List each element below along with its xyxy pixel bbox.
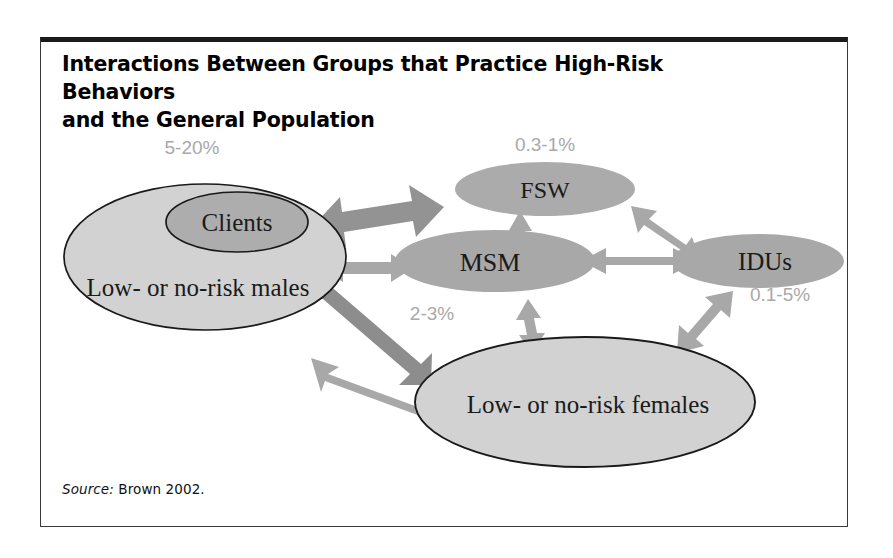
figure-root: Interactions Between Groups that Practic… xyxy=(0,0,893,558)
annotation-pct-males: 5-20% xyxy=(165,137,220,158)
source-note: Source: Brown 2002. xyxy=(62,481,205,497)
node-label-idus: IDUs xyxy=(738,248,792,275)
node-low-no-risk-females[interactable]: Low- or no-risk females xyxy=(415,337,755,467)
node-clients[interactable]: Clients xyxy=(166,192,308,252)
node-fsw[interactable]: FSW xyxy=(455,162,635,216)
node-label-low-no-risk-males: Low- or no-risk males xyxy=(87,274,310,301)
annotation-pct-msm: 2-3% xyxy=(410,303,454,324)
node-msm[interactable]: MSM xyxy=(395,230,595,292)
annotation-pct-fsw: 0.3-1% xyxy=(515,134,575,155)
source-value: Brown 2002. xyxy=(114,481,205,497)
node-label-clients: Clients xyxy=(202,209,273,236)
source-label: Source: xyxy=(62,481,114,497)
node-label-fsw: FSW xyxy=(520,177,570,203)
diagram-canvas: Low- or no-risk males Clients FSW MSM ID… xyxy=(40,37,848,527)
node-idus[interactable]: IDUs xyxy=(672,234,844,288)
node-label-msm: MSM xyxy=(460,248,521,277)
node-label-low-no-risk-females: Low- or no-risk females xyxy=(467,391,709,418)
edge-idus-females xyxy=(677,291,733,353)
annotation-pct-idus: 0.1-5% xyxy=(750,284,810,305)
